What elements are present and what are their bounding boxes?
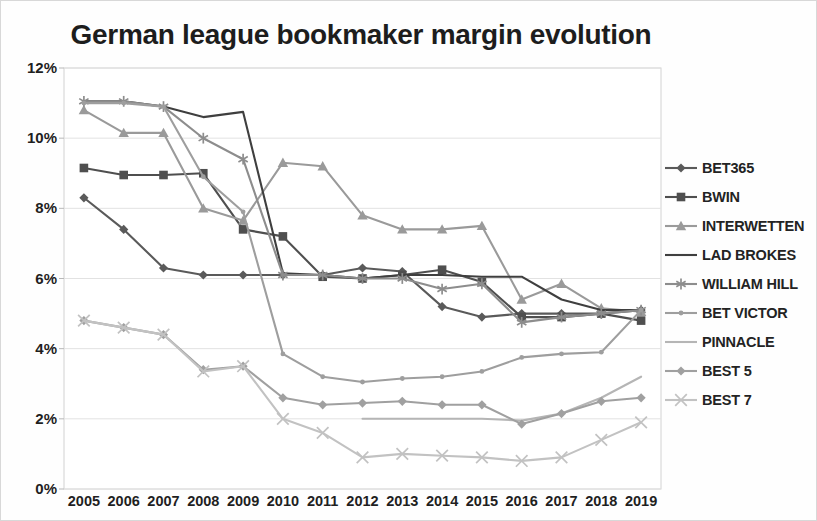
legend-item-best-5[interactable]: BEST 5: [664, 356, 816, 385]
legend-item-best-7[interactable]: BEST 7: [664, 385, 816, 414]
data-point-dot: [360, 380, 365, 385]
legend-marker: [665, 163, 697, 172]
legend-item-interwetten[interactable]: INTERWETTEN: [664, 211, 816, 240]
data-point-dot: [599, 350, 604, 355]
data-point-dot: [400, 376, 405, 381]
data-point-dot: [121, 101, 126, 106]
data-point-square: [279, 232, 288, 241]
legend-item-label: INTERWETTEN: [702, 218, 804, 234]
legend-marker: [665, 278, 697, 289]
legend-item-william-hill[interactable]: WILLIAM HILL: [664, 269, 816, 298]
legend-swatch-square-icon: [664, 189, 698, 205]
data-point-square: [159, 171, 168, 180]
y-axis-tick-label: 12%: [5, 59, 57, 76]
data-point-dot: [639, 308, 644, 313]
data-point-square: [637, 316, 646, 325]
legend-item-label: LAD BROKES: [702, 247, 796, 263]
legend-marker: [665, 192, 697, 201]
data-point-dot: [480, 369, 485, 374]
legend-swatch-dot-icon: [664, 305, 698, 321]
data-point-square: [80, 164, 89, 173]
legend-marker: [665, 310, 697, 315]
data-point-dot: [440, 374, 445, 379]
chart-page: German league bookmaker margin evolution…: [0, 0, 817, 521]
legend-item-pinnacle[interactable]: PINNACLE: [664, 327, 816, 356]
legend-item-label: WILLIAM HILL: [702, 276, 798, 292]
data-point-square: [438, 265, 447, 274]
data-point-dot: [679, 310, 684, 315]
data-point-dot: [559, 352, 564, 357]
data-point-square: [677, 192, 686, 201]
legend-swatch-none-icon: [664, 334, 698, 350]
x-axis-tick-label: 2019: [615, 493, 667, 509]
legend-item-label: PINNACLE: [702, 334, 775, 350]
y-axis-tick-label: 2%: [5, 410, 57, 427]
legend-swatch-diamond-icon: [664, 160, 698, 176]
legend-item-label: BEST 7: [702, 392, 752, 408]
legend-item-bwin[interactable]: BWIN: [664, 182, 816, 211]
data-point-dot: [201, 174, 206, 179]
legend-item-label: BEST 5: [702, 363, 752, 379]
legend-swatch-x-icon: [664, 392, 698, 408]
data-point-dot: [519, 355, 524, 360]
legend-swatch-triangle-icon: [664, 218, 698, 234]
data-point-diamond: [676, 163, 685, 172]
y-axis-tick-label: 4%: [5, 340, 57, 357]
legend-marker: [665, 394, 697, 406]
y-axis: 0%2%4%6%8%10%12%: [1, 1, 57, 521]
y-axis-tick-label: 8%: [5, 199, 57, 216]
chart-legend: BET365BWININTERWETTENLAD BROKESWILLIAM H…: [664, 153, 816, 414]
data-point-dot: [82, 101, 87, 106]
legend-item-bet365[interactable]: BET365: [664, 153, 816, 182]
legend-item-bet-victor[interactable]: BET VICTOR: [664, 298, 816, 327]
data-point-diamond: [676, 366, 685, 375]
legend-item-lad-brokes[interactable]: LAD BROKES: [664, 240, 816, 269]
data-point-dot: [161, 104, 166, 109]
legend-swatch-none-icon: [664, 247, 698, 263]
y-axis-tick-label: 6%: [5, 270, 57, 287]
legend-marker: [665, 220, 697, 229]
legend-swatch-diamond-icon: [664, 363, 698, 379]
legend-swatch-asterisk-icon: [664, 276, 698, 292]
data-point-dot: [320, 374, 325, 379]
legend-item-label: BWIN: [702, 189, 740, 205]
legend-item-label: BET365: [702, 160, 754, 176]
y-axis-tick-label: 10%: [5, 129, 57, 146]
x-axis: 2005200620072008200920102011201220132014…: [1, 493, 681, 521]
y-tick-marks: [59, 68, 64, 489]
legend-item-label: BET VICTOR: [702, 305, 788, 321]
legend-marker: [665, 366, 697, 375]
data-point-square: [119, 171, 128, 180]
data-point-dot: [241, 209, 246, 214]
data-point-dot: [281, 352, 286, 357]
